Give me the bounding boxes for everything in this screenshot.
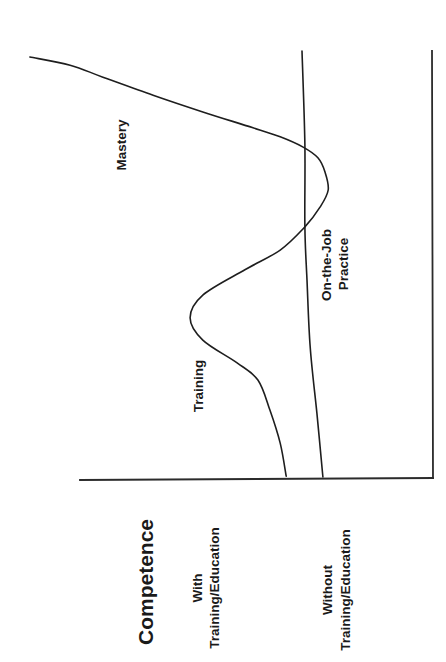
competence-axis-title: Competence bbox=[134, 519, 157, 645]
competence-axis bbox=[80, 478, 433, 480]
training-label: Training bbox=[191, 360, 206, 413]
without-category-line1: Without bbox=[320, 564, 335, 615]
with-category-line1: With bbox=[190, 573, 205, 602]
practice-label: Practice bbox=[336, 237, 351, 290]
on-the-job-label: On-the-Job bbox=[319, 229, 334, 301]
with-category-line2: Training/Education bbox=[207, 527, 222, 649]
time-axis bbox=[432, 51, 433, 478]
with-training-curve bbox=[30, 57, 328, 476]
mastery-label: Mastery bbox=[114, 119, 129, 171]
without-category-line2: Training/Education bbox=[338, 529, 353, 651]
competence-chart: Mastery Training On-the-Job Practice Com… bbox=[0, 0, 446, 662]
